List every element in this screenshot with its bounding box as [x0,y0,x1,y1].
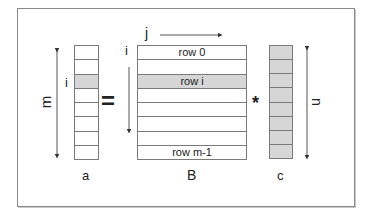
vector-a-cell [75,46,98,60]
B-row-index-label: i [125,45,128,57]
vector-a-cell [75,132,98,146]
matrix-row-0: row 0 [138,46,246,60]
vector-c-cell [270,88,292,102]
multiply-sign: * [252,94,259,112]
vector-c-label: c [277,170,284,182]
vector-a-cell [75,117,98,131]
vector-c-cell [270,46,292,60]
vector-c-cell [270,131,292,145]
matrix-row [138,103,246,117]
vector-a-cell-i [75,75,98,89]
j-index-label: j [145,27,148,39]
vector-c-cell [270,103,292,117]
vector-a-cell [75,103,98,117]
n-dimension-label: n [311,98,323,106]
matrix-row [138,89,246,103]
equals-sign: = [101,89,115,113]
m-dimension-label: m [40,96,52,109]
vector-a-cell [75,146,98,159]
matrix-row-i: row i [138,75,246,89]
vector-c-cell [270,145,292,158]
a-index-label: i [65,77,68,89]
vector-a [74,45,99,160]
matrix-B-label: B [187,169,196,181]
vector-a-cell [75,89,98,103]
vector-a-label: a [82,170,89,182]
vector-c [269,45,293,159]
vector-a-cell [75,60,98,74]
vector-c-cell [270,74,292,88]
matrix-B: row 0 row i row m-1 [137,45,247,160]
matrix-row-m-1: row m-1 [138,146,246,159]
vector-c-cell [270,117,292,131]
matrix-row [138,60,246,74]
matrix-row [138,132,246,146]
vector-c-cell [270,60,292,74]
matrix-row [138,117,246,131]
